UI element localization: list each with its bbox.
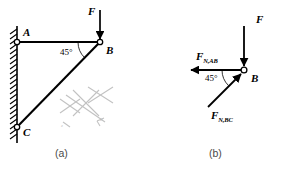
angle-label-b: 45°	[205, 74, 218, 83]
angle-label-a: 45°	[60, 48, 73, 57]
figure-root: A B C 45° F z b (a) F FN,AB FN,BC 45° B …	[0, 0, 285, 169]
watermark-marks	[60, 87, 113, 127]
watermark-text-right: b	[100, 117, 103, 122]
caption-a: (a)	[55, 148, 68, 159]
point-label-b: B	[106, 45, 113, 56]
caption-b: (b)	[209, 148, 222, 159]
joint-b-fbd	[241, 67, 247, 73]
angle-arc-a	[78, 42, 85, 58]
force-subscript-n-ab: N,AB	[203, 57, 217, 64]
member-bc	[17, 42, 100, 127]
load-label-a: F	[88, 6, 95, 17]
joint-a	[14, 39, 19, 44]
point-label-b-fbd: B	[251, 73, 258, 84]
wall-hatching	[10, 29, 17, 139]
joint-c	[14, 124, 19, 129]
figure-vector-layer	[0, 0, 285, 169]
panel-b-graphics	[191, 26, 247, 107]
force-label-n-ab: FN,AB	[196, 51, 218, 62]
force-label-f: F	[256, 14, 263, 25]
point-label-a: A	[23, 27, 30, 38]
force-subscript-n-bc: N,BC	[218, 116, 232, 123]
joint-b	[97, 39, 102, 44]
angle-arc-b	[222, 70, 229, 86]
watermark-text-left: z	[61, 123, 63, 128]
point-label-c: C	[23, 127, 30, 138]
force-label-n-bc: FN,BC	[211, 110, 233, 121]
